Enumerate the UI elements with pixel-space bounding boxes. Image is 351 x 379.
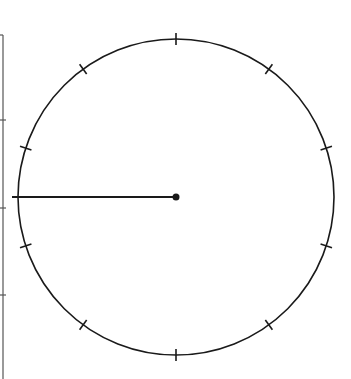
dial-diagram [0, 0, 351, 379]
dial-tick [265, 320, 272, 330]
dial-tick [265, 64, 272, 74]
left-scale [0, 35, 6, 379]
center-dot [173, 194, 180, 201]
dial-tick [80, 320, 87, 330]
dial-tick [80, 64, 87, 74]
